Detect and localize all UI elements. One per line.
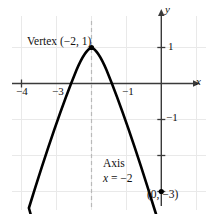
y-tick-label--1: −1 [166, 112, 178, 124]
x-tick-label--3: −3 [52, 86, 64, 98]
axis-annotation-equation: x = −2 [103, 172, 133, 184]
y-intercept-annotation: (0, −3) [147, 188, 178, 200]
y-axis-label: y [165, 4, 170, 16]
x-tick-label--4: −4 [16, 86, 28, 98]
axis-annotation-word: Axis [103, 157, 125, 169]
x-tick-label--1: −1 [122, 86, 134, 98]
axis-equation-value: = −2 [108, 172, 132, 184]
x-axis-label: x [196, 76, 201, 88]
parabola-figure: Vertex (−2, 1) Axis x = −2 (0, −3) −4 −3… [0, 0, 209, 214]
y-tick-label-1: 1 [168, 41, 174, 53]
parabola-curve [29, 48, 156, 215]
vertex-annotation: Vertex (−2, 1) [27, 35, 91, 47]
y-axis-arrow-icon [158, 9, 165, 16]
